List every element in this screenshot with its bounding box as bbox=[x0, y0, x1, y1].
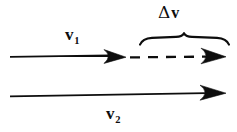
brace-right-half bbox=[184, 33, 229, 44]
delta-v-brace bbox=[140, 33, 229, 44]
v2-label-subscript: 2 bbox=[115, 114, 120, 125]
v1-label-base: v bbox=[65, 25, 74, 44]
brace-left-half bbox=[140, 33, 184, 44]
delta-symbol: Δ bbox=[158, 2, 170, 22]
v2-label: v2 bbox=[106, 105, 120, 122]
v2-shaft-line bbox=[10, 93, 206, 96]
v2-label-base: v bbox=[106, 104, 115, 123]
delta-v-arrow bbox=[130, 48, 226, 64]
vector-difference-figure: v1 v2 Δv bbox=[0, 0, 237, 132]
v1-arrow bbox=[10, 50, 126, 64]
delta-v-label-base: v bbox=[171, 4, 179, 21]
v2-arrow bbox=[10, 85, 226, 100]
delta-v-label: Δv bbox=[158, 4, 179, 21]
v1-label: v1 bbox=[65, 26, 79, 43]
delta-v-dashed-shaft bbox=[130, 57, 206, 58]
v1-label-subscript: 1 bbox=[74, 35, 79, 46]
